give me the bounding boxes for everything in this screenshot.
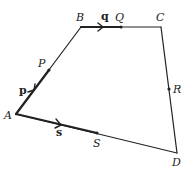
arrowheads — [28, 23, 103, 128]
label-s: S — [93, 137, 101, 150]
point-s-dot — [95, 131, 98, 134]
label-q: Q — [115, 11, 124, 24]
label-d: D — [171, 156, 181, 169]
label-vector-p: p — [19, 84, 27, 97]
point-dots — [47, 25, 170, 134]
label-b: B — [75, 11, 84, 24]
point-p-dot — [47, 68, 50, 71]
label-r: R — [172, 83, 181, 96]
label-p: P — [37, 57, 46, 70]
label-vector-q: q — [101, 10, 109, 23]
label-vector-s: s — [56, 126, 62, 139]
label-a: A — [3, 109, 12, 122]
label-c: C — [156, 11, 165, 24]
point-q-dot — [119, 25, 122, 28]
point-r-dot — [167, 87, 170, 90]
quadrilateral-diagram: A B C D P Q R S p q s — [0, 0, 193, 176]
